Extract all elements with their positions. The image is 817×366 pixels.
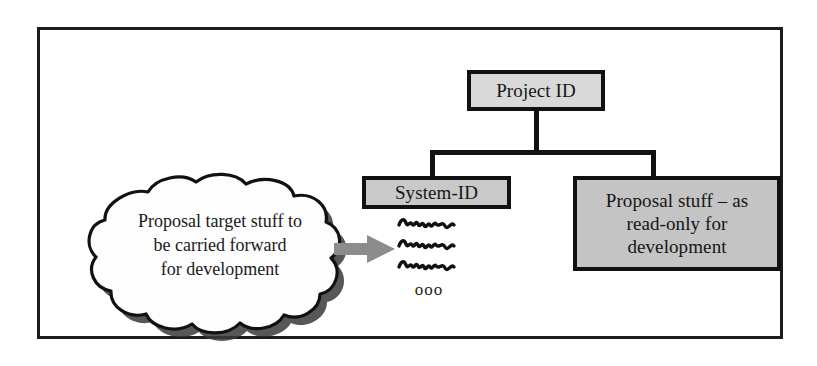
flow-arrow-icon bbox=[334, 234, 396, 264]
node-project-id-label: Project ID bbox=[496, 79, 576, 102]
connector-line-to-proposal-readonly bbox=[651, 150, 656, 177]
connector-line-to-system-id bbox=[430, 150, 435, 177]
node-system-id: System-ID bbox=[362, 176, 511, 209]
node-proposal-readonly-line-3: development bbox=[606, 235, 748, 258]
diagram-frame: Project ID System-ID Proposal stuff – as… bbox=[37, 27, 783, 339]
node-proposal-readonly: Proposal stuff – as read-only for develo… bbox=[573, 176, 781, 271]
cloud-shape bbox=[82, 170, 352, 342]
connector-line-project-to-bar bbox=[534, 110, 539, 154]
node-project-id: Project ID bbox=[467, 70, 605, 111]
node-proposal-readonly-line-1: Proposal stuff – as bbox=[606, 189, 748, 212]
scribble-caption: ooo bbox=[396, 280, 462, 300]
connector-horizontal-bar bbox=[430, 150, 656, 155]
scribble-lines-icon bbox=[396, 216, 462, 278]
node-proposal-readonly-line-2: read-only for bbox=[606, 212, 748, 235]
node-proposal-readonly-label: Proposal stuff – as read-only for develo… bbox=[606, 189, 748, 259]
node-system-id-label: System-ID bbox=[395, 181, 478, 204]
